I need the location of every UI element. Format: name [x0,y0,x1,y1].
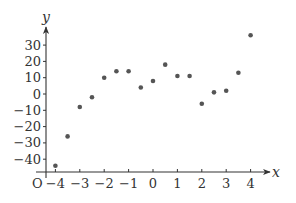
x-tick-label: 0 [149,176,157,191]
y-tick-label: 20 [24,54,41,69]
data-point [212,90,217,95]
data-point [139,85,144,90]
data-point [224,88,229,93]
x-tick-label: 2 [198,176,206,191]
data-points [53,33,253,168]
x-tick-label: −4 [46,176,65,191]
y-tick-label: 10 [24,70,41,85]
data-point [53,163,58,168]
y-tick-label: 0 [33,87,41,102]
scatter-chart: −4−3−2−101234 3020100−10−20−30−40 x y O [0,0,296,203]
data-point [78,105,83,110]
data-point [114,69,119,74]
data-point [102,75,107,80]
y-tick-label: 30 [24,38,41,53]
data-point [248,33,253,38]
data-point [187,74,192,79]
data-point [163,62,168,67]
y-axis-label: y [41,9,51,25]
y-tick-label: −20 [14,119,41,134]
x-tick-label: 1 [173,176,181,191]
x-tick-label: 4 [246,176,254,191]
axes [36,27,270,178]
data-point [90,95,95,100]
x-tick-label: −3 [70,176,89,191]
x-tick-label: −1 [119,176,138,191]
data-point [236,71,241,76]
y-axis-ticks: 3020100−10−20−30−40 [14,38,46,167]
x-axis-label: x [272,164,280,180]
y-tick-label: −40 [14,152,41,167]
data-point [175,74,180,79]
data-point [65,134,70,139]
origin-label: O [32,176,43,191]
data-point [151,79,156,84]
data-point [126,69,131,74]
y-tick-label: −10 [14,103,41,118]
y-tick-label: −30 [14,135,41,150]
x-tick-label: −2 [95,176,114,191]
x-tick-label: 3 [222,176,230,191]
data-point [200,101,205,106]
